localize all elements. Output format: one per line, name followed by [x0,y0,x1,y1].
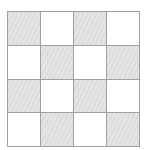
grid-cell-shaded [73,11,106,45]
grid-cell-white [106,11,139,45]
grid-cell-shaded [40,112,73,146]
grid-cell-white [73,45,106,79]
grid-cell-white [40,11,73,45]
grid-cell-shaded [73,79,106,113]
grid-cell-shaded [106,45,139,79]
grid-cell-shaded [106,112,139,146]
grid-cell-white [73,112,106,146]
grid-cell-white [40,79,73,113]
grid-cell-shaded [7,11,40,45]
grid-cell-white [106,79,139,113]
grid-cell-white [7,112,40,146]
grid-cell-shaded [40,45,73,79]
grid-cell-white [7,45,40,79]
checkerboard-grid [7,11,140,147]
grid-cell-shaded [7,79,40,113]
